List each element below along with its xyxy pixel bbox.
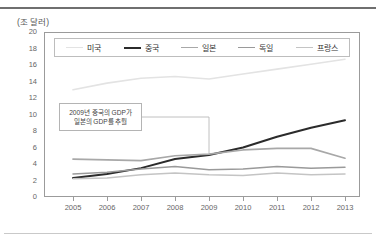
- y-axis-tick-14: 14: [13, 78, 37, 86]
- legend-label-일본: 일본: [202, 42, 216, 53]
- legend-item-미국[interactable]: 미국: [66, 42, 101, 53]
- bottom-divider-rule: [4, 233, 372, 234]
- legend-item-독일[interactable]: 독일: [238, 42, 273, 53]
- legend-label-중국: 중국: [145, 42, 159, 53]
- series-line-프랑스: [73, 173, 345, 179]
- legend-swatch-icon-프랑스: [296, 47, 313, 48]
- legend-swatch-icon-독일: [238, 47, 255, 48]
- legend-item-프랑스[interactable]: 프랑스: [296, 42, 338, 53]
- legend-item-중국[interactable]: 중국: [124, 42, 159, 53]
- x-axis-tickmark-2009: [209, 197, 210, 201]
- legend-label-독일: 독일: [259, 42, 273, 53]
- legend-label-미국: 미국: [87, 42, 101, 53]
- y-axis-tick-16: 16: [13, 61, 37, 69]
- y-axis-tick-4: 4: [13, 160, 37, 168]
- annotation-line-1: 2009년 중국의 GDP가: [69, 109, 132, 117]
- x-axis-tickmark-2008: [175, 197, 176, 201]
- y-axis-tick-12: 12: [13, 94, 37, 102]
- x-axis-tick-2007: 2007: [124, 204, 158, 212]
- legend-swatch-icon-중국: [124, 47, 141, 49]
- annotation-callout: 2009년 중국의 GDP가 일본의 GDP를 추월: [59, 103, 142, 131]
- y-axis-tick-2: 2: [13, 177, 37, 185]
- x-axis-tickmark-2012: [311, 197, 312, 201]
- x-axis-tick-2012: 2012: [294, 204, 328, 212]
- y-axis-tick-10: 10: [13, 111, 37, 119]
- x-axis-tickmark-2010: [243, 197, 244, 201]
- x-axis-tickmark-2006: [107, 197, 108, 201]
- y-axis-tick-8: 8: [13, 127, 37, 135]
- legend-swatch-icon-미국: [66, 47, 83, 48]
- legend-label-프랑스: 프랑스: [317, 42, 338, 53]
- top-divider-rule: [0, 7, 376, 9]
- x-axis-tick-2009: 2009: [192, 204, 226, 212]
- y-axis-tick-0: 0: [13, 193, 37, 201]
- x-axis-tickmark-2007: [141, 197, 142, 201]
- y-axis-tick-6: 6: [13, 144, 37, 152]
- legend-swatch-icon-일본: [181, 47, 198, 48]
- chart-legend: 미국중국일본독일프랑스: [54, 38, 350, 57]
- x-axis-tick-2008: 2008: [158, 204, 192, 212]
- annotation-line-2: 일본의 GDP를 추월: [74, 118, 128, 126]
- chart-root: (조 달러) 02468101214161820 200520062007200…: [0, 0, 376, 241]
- x-axis-tickmark-2013: [345, 197, 346, 201]
- x-axis-tickmark-2005: [73, 197, 74, 201]
- x-axis-tick-2011: 2011: [260, 204, 294, 212]
- annotation-leader-line: [142, 117, 209, 155]
- series-line-미국: [73, 59, 345, 90]
- x-axis-tick-2013: 2013: [328, 204, 362, 212]
- y-axis-unit-label: (조 달러): [17, 15, 49, 27]
- y-axis-tick-20: 20: [13, 28, 37, 36]
- x-axis-tick-2005: 2005: [56, 204, 90, 212]
- x-axis-tickmark-2011: [277, 197, 278, 201]
- x-axis-tick-2010: 2010: [226, 204, 260, 212]
- x-axis-tick-2006: 2006: [90, 204, 124, 212]
- y-axis-tick-18: 18: [13, 45, 37, 53]
- legend-item-일본[interactable]: 일본: [181, 42, 216, 53]
